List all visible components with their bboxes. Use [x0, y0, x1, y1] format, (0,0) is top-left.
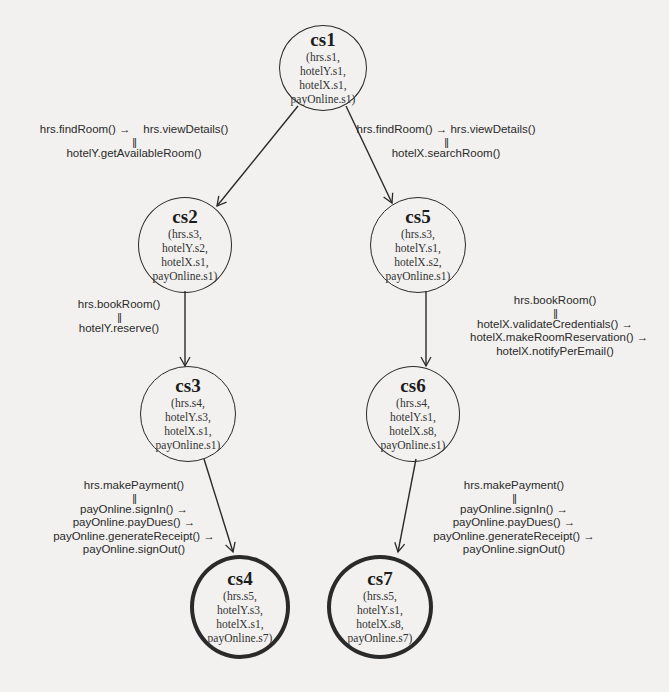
- node-state-line: hotelY.s3,: [165, 410, 211, 424]
- label-top: hrs.makePayment(): [414, 479, 614, 493]
- label-bottom: payOnline.signIn() →: [414, 503, 614, 517]
- node-state-line: hotelY.s1,: [300, 64, 346, 78]
- label-top: hrs.findRoom() → hrs.viewDetails(): [356, 123, 536, 137]
- parallel-operator: ||: [24, 137, 244, 147]
- node-state-line: payOnline.s1): [381, 438, 446, 452]
- label-top: hrs.bookRoom(): [470, 294, 640, 308]
- node-id: cs6: [400, 376, 425, 396]
- node-cs3: cs3 (hrs.s4, hotelY.s3, hotelX.s1, payOn…: [140, 366, 236, 462]
- node-state-line: payOnline.s1): [386, 269, 451, 283]
- node-state-line: hotelY.s1,: [390, 410, 436, 424]
- label-bottom: hotelX.searchRoom(): [356, 147, 536, 161]
- node-id: cs4: [227, 569, 252, 589]
- label-bottom: payOnline.signOut(): [414, 543, 614, 557]
- parallel-operator: ||: [414, 493, 614, 503]
- node-state-line: (hrs.s3,: [401, 227, 435, 241]
- label-bottom: payOnline.generateReceipt() →: [34, 530, 234, 544]
- node-state-line: hotelY.s2,: [162, 241, 208, 255]
- label-bottom: hotelX.notifyPerEmail(): [470, 345, 640, 359]
- node-state-line: hotelX.s1,: [216, 617, 263, 631]
- node-id: cs3: [175, 376, 200, 396]
- edge-label-cs1-cs2: hrs.findRoom() → hrs.viewDetails() || ho…: [24, 123, 244, 160]
- label-bottom: payOnline.generateReceipt() →: [414, 530, 614, 544]
- parallel-operator: ||: [470, 308, 640, 318]
- label-top: hrs.bookRoom(): [64, 298, 174, 312]
- node-id: cs5: [405, 207, 430, 227]
- edge-label-cs1-cs5: hrs.findRoom() → hrs.viewDetails() || ho…: [356, 123, 536, 160]
- node-state-line: (hrs.s3,: [168, 227, 202, 241]
- node-id: cs1: [310, 30, 335, 50]
- edge-label-cs5-cs6: hrs.bookRoom() || hotelX.validateCredent…: [470, 294, 640, 358]
- node-state-line: payOnline.s7): [348, 631, 413, 645]
- label-bottom: hotelX.validateCredentials() →: [470, 318, 640, 332]
- label-bottom: payOnline.payDues() →: [414, 516, 614, 530]
- node-state-line: hotelX.s8,: [389, 424, 436, 438]
- node-id: cs7: [367, 569, 392, 589]
- node-state-line: payOnline.s1): [291, 92, 356, 106]
- node-state-line: (hrs.s5,: [223, 589, 257, 603]
- parallel-operator: ||: [34, 493, 234, 503]
- node-state-line: hotelX.s1,: [161, 255, 208, 269]
- node-id: cs2: [172, 207, 197, 227]
- node-cs6: cs6 (hrs.s4, hotelY.s1, hotelX.s8, payOn…: [366, 366, 460, 462]
- node-cs5: cs5 (hrs.s3, hotelY.s1, hotelX.s2, payOn…: [370, 197, 466, 293]
- label-bottom: hotelX.makeRoomReservation() →: [470, 331, 640, 345]
- state-diagram: cs1 (hrs.s1, hotelY.s1, hotelX.s1, payOn…: [0, 0, 669, 692]
- node-cs2: cs2 (hrs.s3, hotelY.s2, hotelX.s1, payOn…: [138, 197, 232, 293]
- label-top: hrs.findRoom() → hrs.viewDetails(): [24, 123, 244, 137]
- node-state-line: (hrs.s4,: [396, 396, 430, 410]
- node-state-line: hotelX.s2,: [394, 255, 441, 269]
- node-state-line: payOnline.s1): [153, 269, 218, 283]
- node-cs1: cs1 (hrs.s1, hotelY.s1, hotelX.s1, payOn…: [279, 25, 367, 111]
- node-state-line: hotelY.s1,: [357, 603, 403, 617]
- node-state-line: hotelY.s1,: [395, 241, 441, 255]
- edge-label-cs6-cs7: hrs.makePayment() || payOnline.signIn() …: [414, 479, 614, 557]
- label-bottom: payOnline.signIn() →: [34, 503, 234, 517]
- node-state-line: hotelY.s3,: [217, 603, 263, 617]
- label-bottom: payOnline.payDues() →: [34, 516, 234, 530]
- node-cs7: cs7 (hrs.s5, hotelY.s1, hotelX.s8, payOn…: [327, 555, 433, 659]
- node-state-line: (hrs.s5,: [363, 589, 397, 603]
- label-bottom: hotelY.getAvailableRoom(): [24, 147, 244, 161]
- label-bottom: payOnline.signOut(): [34, 543, 234, 557]
- edge-label-cs3-cs4: hrs.makePayment() || payOnline.signIn() …: [34, 479, 234, 557]
- parallel-operator: ||: [64, 312, 174, 322]
- edge-label-cs2-cs3: hrs.bookRoom() || hotelY.reserve(): [64, 298, 174, 335]
- node-state-line: hotelX.s8,: [356, 617, 403, 631]
- node-state-line: (hrs.s1,: [306, 50, 340, 64]
- node-state-line: hotelX.s1,: [164, 424, 211, 438]
- node-state-line: payOnline.s1): [156, 438, 221, 452]
- node-state-line: payOnline.s7): [208, 631, 273, 645]
- label-top: hrs.makePayment(): [34, 479, 234, 493]
- node-state-line: (hrs.s4,: [171, 396, 205, 410]
- node-state-line: hotelX.s1,: [299, 78, 346, 92]
- parallel-operator: ||: [356, 137, 536, 147]
- node-cs4: cs4 (hrs.s5, hotelY.s3, hotelX.s1, payOn…: [190, 555, 290, 659]
- label-bottom: hotelY.reserve(): [64, 322, 174, 336]
